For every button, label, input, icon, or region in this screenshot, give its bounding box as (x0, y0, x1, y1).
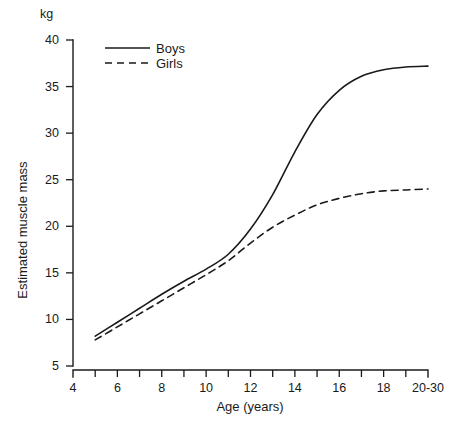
x-tick-label: 20-30 (401, 382, 454, 395)
muscle-mass-chart: kg Estimated muscle mass Age (years) 403… (0, 0, 454, 426)
y-axis (66, 40, 73, 366)
legend-label-girls: Girls (156, 57, 183, 70)
y-tick-label: 5 (25, 360, 59, 373)
series-lines (95, 66, 428, 340)
y-tick-label: 20 (25, 220, 59, 233)
y-tick-label: 10 (25, 313, 59, 326)
y-tick-label: 30 (25, 127, 59, 140)
series-line-boys (95, 66, 428, 336)
chart-plot-area (0, 0, 454, 426)
y-axis-unit-label: kg (40, 8, 53, 21)
y-tick-label: 15 (25, 267, 59, 280)
legend-label-boys: Boys (156, 42, 185, 55)
x-axis (73, 370, 428, 377)
y-tick-label: 35 (25, 81, 59, 94)
y-tick-label: 25 (25, 174, 59, 187)
x-axis-title: Age (years) (150, 400, 350, 413)
y-tick-label: 40 (25, 34, 59, 47)
legend-line-samples (105, 48, 150, 63)
